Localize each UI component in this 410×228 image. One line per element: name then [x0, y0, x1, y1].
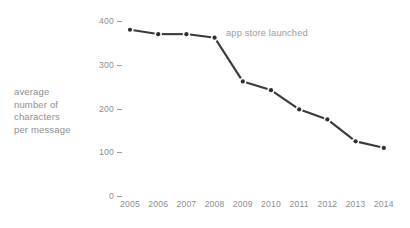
data-point — [382, 146, 386, 150]
data-point — [325, 117, 329, 121]
data-point — [241, 79, 245, 83]
plot-area — [0, 0, 410, 228]
data-point — [184, 32, 188, 36]
line-segment — [303, 111, 324, 119]
annotation-app-store-launched: app store launched — [226, 28, 308, 38]
data-point — [354, 139, 358, 143]
data-points — [128, 28, 386, 150]
data-point — [213, 36, 217, 40]
data-point — [156, 32, 160, 36]
line-segment — [330, 122, 353, 139]
line-segment — [134, 30, 155, 33]
data-point — [269, 88, 273, 92]
line-segment — [217, 41, 241, 79]
data-point — [297, 107, 301, 111]
line-segment — [246, 82, 267, 89]
line-series — [134, 30, 381, 147]
chart-figure: average number of characters per message… — [0, 0, 410, 228]
data-point — [128, 28, 132, 32]
line-segment — [190, 35, 211, 38]
line-segment — [274, 92, 296, 107]
line-segment — [359, 142, 380, 147]
